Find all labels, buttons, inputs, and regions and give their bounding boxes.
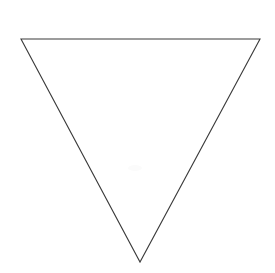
figure-canvas: [0, 0, 275, 273]
drawing-surface: [0, 0, 275, 273]
page-background: [0, 0, 275, 273]
scan-smudge: [128, 165, 142, 171]
